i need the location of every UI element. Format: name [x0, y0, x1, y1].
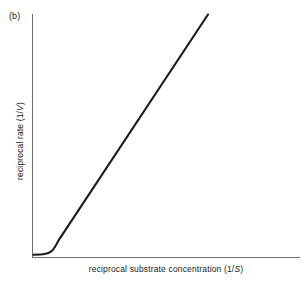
- data-curve-series-1: [34, 15, 209, 255]
- x-axis-label-prefix: reciprocal substrate concentration (1/: [89, 264, 235, 274]
- figure-panel-b: (b) reciprocal substrate concentration (…: [0, 0, 306, 287]
- y-axis-label-variable: V: [15, 105, 25, 111]
- y-axis-label-prefix: reciprocal rate (1/: [15, 111, 25, 180]
- y-axis-label: reciprocal rate (1/V): [15, 61, 25, 221]
- y-axis-label-suffix: ): [15, 102, 25, 105]
- x-axis-label-suffix: ): [240, 264, 243, 274]
- plot-area: [0, 0, 306, 287]
- x-axis-label: reciprocal substrate concentration (1/S): [32, 264, 300, 274]
